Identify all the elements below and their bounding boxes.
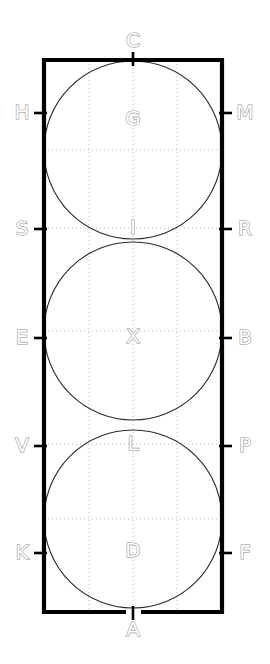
- label-point-m: M: [236, 100, 253, 124]
- label-point-x: X: [126, 324, 140, 348]
- diagram-canvas: C A H S E V K M R B P F G I X L D: [0, 0, 270, 664]
- label-point-g: G: [125, 106, 141, 130]
- label-point-b: B: [238, 325, 252, 349]
- label-point-a: A: [126, 617, 140, 641]
- circles-diagram: C A H S E V K M R B P F G I X L D: [0, 0, 270, 664]
- label-point-s: S: [16, 216, 29, 240]
- label-point-p: P: [239, 433, 251, 457]
- label-point-d: D: [125, 538, 140, 562]
- label-point-c: C: [126, 28, 140, 52]
- label-point-r: R: [238, 216, 252, 240]
- label-point-l: L: [127, 431, 139, 455]
- label-point-i: I: [130, 215, 136, 239]
- label-point-h: H: [14, 100, 29, 124]
- label-point-k: K: [15, 540, 29, 564]
- label-point-v: V: [15, 433, 29, 457]
- label-point-e: E: [16, 325, 29, 349]
- label-group: C A H S E V K M R B P F G I X L D: [14, 28, 253, 641]
- label-point-f: F: [239, 540, 251, 564]
